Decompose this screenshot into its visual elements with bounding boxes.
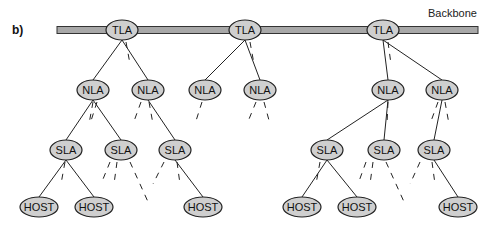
dashed-stub — [445, 102, 449, 124]
node-host: HOST — [184, 197, 222, 217]
node-nla: NLA — [189, 80, 221, 100]
node-sla: SLA — [311, 140, 343, 160]
node-label: SLA — [56, 144, 77, 156]
node-label: NLA — [194, 84, 216, 96]
node-nla: NLA — [244, 80, 276, 100]
edge-nla6-sla6 — [434, 100, 442, 140]
backbone-label: Backbone — [428, 7, 477, 19]
dashed-stub — [126, 42, 130, 64]
node-label: TLA — [112, 24, 133, 36]
node-label: HOST — [79, 201, 110, 213]
edge-nla1-sla1 — [66, 100, 93, 140]
dashed-stub — [101, 162, 110, 184]
dashed-stub — [250, 42, 254, 64]
edge-tla1-nla2 — [122, 40, 148, 80]
edge-tla3-nla5 — [383, 40, 388, 80]
edge-tla2-nla3 — [205, 40, 245, 80]
dashed-stub — [130, 162, 149, 204]
dashed-stub — [264, 102, 270, 124]
edge-tla3-nla6 — [383, 40, 442, 80]
node-nla: NLA — [77, 80, 109, 100]
node-label: HOST — [188, 201, 219, 213]
edge-tla2-nla4 — [245, 40, 260, 80]
node-label: TLA — [235, 24, 256, 36]
dashed-stub — [386, 162, 405, 204]
node-nla: NLA — [426, 80, 458, 100]
node-label: SLA — [111, 144, 132, 156]
node-tla: TLA — [367, 20, 399, 40]
node-label: NLA — [82, 84, 104, 96]
edge-sla1-host2 — [66, 160, 94, 197]
dashed-stub — [410, 162, 420, 184]
node-label: HOST — [443, 201, 474, 213]
dashed-stub — [247, 102, 256, 124]
node-label: NLA — [431, 84, 453, 96]
dashed-stub — [432, 162, 435, 184]
node-label: HOST — [24, 201, 55, 213]
dashed-stub — [195, 102, 202, 124]
node-tla: TLA — [229, 20, 261, 40]
edge-tla1-nla1 — [93, 40, 122, 80]
node-label: NLA — [137, 84, 159, 96]
node-label: HOST — [342, 201, 373, 213]
edge-nla2-sla3 — [148, 100, 175, 140]
edge-nla5-sla4 — [327, 100, 388, 140]
node-label: HOST — [287, 201, 318, 213]
panel-label: b) — [12, 23, 23, 37]
ipv6-address-hierarchy-diagram: b) Backbone TLATLATLANLANLANLANLANLANLAS… — [0, 0, 495, 230]
node-sla: SLA — [418, 140, 450, 160]
node-sla: SLA — [105, 140, 137, 160]
node-sla: SLA — [50, 140, 82, 160]
node-nla: NLA — [372, 80, 404, 100]
dashed-stub — [114, 162, 117, 184]
edge-sla6-host6 — [434, 160, 458, 197]
node-label: NLA — [377, 84, 399, 96]
node-host: HOST — [338, 197, 376, 217]
dashed-stub — [90, 102, 97, 124]
edge-sla4-host5 — [327, 160, 357, 197]
dashed-stub — [153, 162, 164, 184]
tree-edges — [39, 40, 458, 197]
node-host: HOST — [439, 197, 477, 217]
node-sla: SLA — [159, 140, 191, 160]
dashed-stub — [430, 102, 438, 124]
node-nla: NLA — [132, 80, 164, 100]
dashed-stub — [133, 102, 141, 124]
node-host: HOST — [283, 197, 321, 217]
node-label: TLA — [373, 24, 394, 36]
node-host: HOST — [20, 197, 58, 217]
dashed-stub — [370, 162, 373, 184]
node-tla: TLA — [106, 20, 138, 40]
node-host: HOST — [75, 197, 113, 217]
node-label: SLA — [424, 144, 445, 156]
node-label: SLA — [374, 144, 395, 156]
node-label: NLA — [249, 84, 271, 96]
node-label: SLA — [165, 144, 186, 156]
node-sla: SLA — [368, 140, 400, 160]
dashed-stub — [358, 162, 366, 184]
node-label: SLA — [317, 144, 338, 156]
edge-nla1-sla2 — [93, 100, 121, 140]
edge-sla4-host4 — [302, 160, 327, 197]
